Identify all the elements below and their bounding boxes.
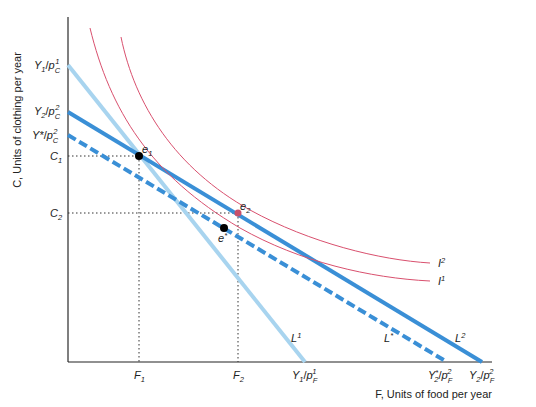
ytick-c2: C2 bbox=[50, 207, 63, 222]
x-axis-title: F, Units of food per year bbox=[375, 388, 492, 400]
budget-constraint-diagram: e1 e2 e* I2 I1 L1 L2 L* Y1/pC1 Y2/pC2 Y*… bbox=[0, 0, 536, 407]
xtick-f2: F2 bbox=[233, 369, 245, 384]
ytick-c1: C1 bbox=[50, 150, 62, 165]
budget-line-L1 bbox=[68, 65, 305, 362]
y-axis-title: C, Units of clothing per year bbox=[11, 52, 23, 188]
indifference-curve-I2 bbox=[121, 37, 430, 263]
svg-text:L2: L2 bbox=[455, 331, 466, 344]
xtick-y1-pf1: Y1/pF1 bbox=[292, 367, 318, 385]
svg-text:L*: L* bbox=[384, 331, 394, 344]
xtick-f1: F1 bbox=[134, 369, 145, 384]
svg-text:I2: I2 bbox=[438, 256, 446, 269]
ytick-ystar-pc2: Y*/pC2 bbox=[32, 127, 59, 145]
ytick-y1-pc1: Y1/pC1 bbox=[34, 57, 61, 75]
xtick-y2-pf2: Y2/pF2 bbox=[469, 367, 495, 385]
xtick-y2star-pf2: Y*2/pF2 bbox=[428, 367, 453, 385]
svg-text:I1: I1 bbox=[438, 274, 445, 287]
ytick-y2-pc2: Y2/pC2 bbox=[34, 103, 61, 121]
budget-line-Lstar bbox=[68, 135, 447, 362]
svg-text:e2: e2 bbox=[240, 200, 251, 215]
svg-text:L1: L1 bbox=[291, 331, 301, 344]
svg-text:e*: e* bbox=[218, 231, 228, 244]
